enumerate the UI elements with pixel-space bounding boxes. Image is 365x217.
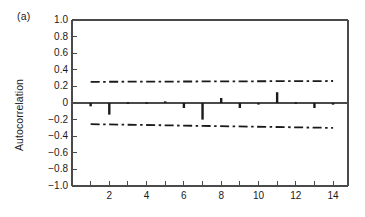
- y-tick-label: 0: [34, 98, 68, 108]
- x-tick-label: 8: [209, 191, 233, 201]
- acf-bar: [276, 92, 278, 103]
- y-tick-label: 0.8: [34, 32, 68, 42]
- acf-bar: [313, 103, 315, 108]
- y-axis-title: Autocorrelation: [13, 55, 25, 175]
- acf-bar: [164, 101, 166, 103]
- acf-bar: [108, 103, 110, 115]
- y-tick-label: −0.8: [34, 164, 68, 174]
- lower-confidence-band: [91, 124, 333, 128]
- acf-bar: [89, 103, 91, 106]
- acf-bars: [89, 92, 334, 119]
- confidence-bands: [91, 81, 333, 128]
- x-tick-label: 12: [284, 191, 308, 201]
- acf-bar: [220, 98, 222, 103]
- acf-bar: [183, 103, 185, 108]
- x-tick-label: 14: [321, 191, 345, 201]
- acf-bar: [239, 103, 241, 108]
- x-axis-tick-labels: 2468101214: [0, 191, 365, 207]
- y-tick-label: 1.0: [34, 15, 68, 25]
- y-tick-label: 0.2: [34, 81, 68, 91]
- acf-bar: [257, 103, 259, 105]
- x-tick-label: 2: [97, 191, 121, 201]
- x-tick-label: 10: [246, 191, 270, 201]
- upper-confidence-band: [91, 81, 333, 82]
- autocorrelation-chart-figure: (a) Autocorrelation 1.00.80.60.40.20−0.2…: [0, 0, 365, 217]
- acf-bar: [127, 102, 129, 104]
- y-tick-label: −1.0: [34, 181, 68, 191]
- x-axis-tick-marks: [91, 181, 333, 186]
- acf-bar: [332, 103, 334, 105]
- y-tick-label: 0.6: [34, 48, 68, 58]
- acf-bar: [295, 102, 297, 104]
- acf-bar: [145, 102, 147, 104]
- y-tick-label: 0.4: [34, 65, 68, 75]
- acf-bar: [201, 103, 203, 120]
- y-tick-label: −0.6: [34, 148, 68, 158]
- y-tick-label: −0.4: [34, 131, 68, 141]
- y-tick-label: −0.2: [34, 115, 68, 125]
- x-tick-label: 4: [135, 191, 159, 201]
- x-tick-label: 6: [172, 191, 196, 201]
- y-axis-tick-labels: 1.00.80.60.40.20−0.2−0.4−0.6−0.8−1.0: [28, 0, 68, 217]
